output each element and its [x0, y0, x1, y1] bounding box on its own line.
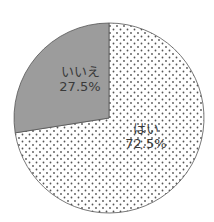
slice-label-yes-name: はい [124, 121, 168, 136]
slice-label-no-name: いいえ [58, 64, 102, 79]
slice-label-no-pct: 27.5% [58, 79, 102, 94]
pie-chart [0, 0, 214, 222]
pie-slices [14, 23, 204, 213]
slice-label-yes-pct: 72.5% [124, 136, 168, 151]
slice-label-no: いいえ 27.5% [58, 64, 102, 94]
slice-label-yes: はい 72.5% [124, 121, 168, 151]
